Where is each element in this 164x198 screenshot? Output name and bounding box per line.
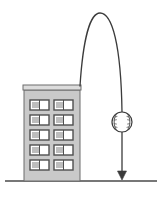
downward-arrow-head bbox=[118, 171, 127, 180]
window bbox=[30, 115, 49, 125]
window bbox=[54, 160, 73, 170]
window bbox=[30, 100, 49, 110]
figure-canvas bbox=[0, 0, 164, 198]
building-roof-band bbox=[23, 85, 81, 90]
window bbox=[54, 145, 73, 155]
window bbox=[30, 145, 49, 155]
window bbox=[30, 160, 49, 170]
window bbox=[54, 100, 73, 110]
projectile-trajectory-path bbox=[80, 13, 122, 112]
window bbox=[54, 130, 73, 140]
window bbox=[54, 115, 73, 125]
building-group bbox=[23, 85, 81, 181]
baseball bbox=[112, 112, 132, 132]
physics-figure-baseball-over-building bbox=[0, 0, 164, 198]
window bbox=[30, 130, 49, 140]
